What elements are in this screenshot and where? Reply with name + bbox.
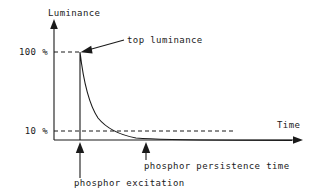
y-tick-label-bottom: 10 % — [25, 126, 48, 136]
phosphor-persistence-arrowhead-icon — [142, 142, 150, 153]
y-tick-label-top: 100 % — [19, 47, 48, 57]
luminance-decay-curve — [80, 52, 292, 140]
y-axis-title: Luminance — [48, 8, 100, 18]
x-axis-title: Time — [277, 120, 300, 130]
x-axis-arrowhead-icon — [293, 136, 303, 144]
phosphor-persistence-annotation-label: phosphor persistence time — [144, 161, 289, 171]
y-axis-arrowhead-icon — [50, 19, 58, 29]
top-luminance-annotation-label: top luminance — [127, 35, 203, 45]
top-luminance-leader-line — [88, 40, 124, 50]
phosphor-excitation-arrowhead-icon — [76, 142, 84, 153]
top-luminance-arrowhead-icon — [81, 46, 93, 54]
phosphor-excitation-annotation-label: phosphor excitation — [74, 178, 185, 188]
phosphor-decay-figure: Luminance Time 100 % 10 % top luminance … — [0, 0, 310, 196]
